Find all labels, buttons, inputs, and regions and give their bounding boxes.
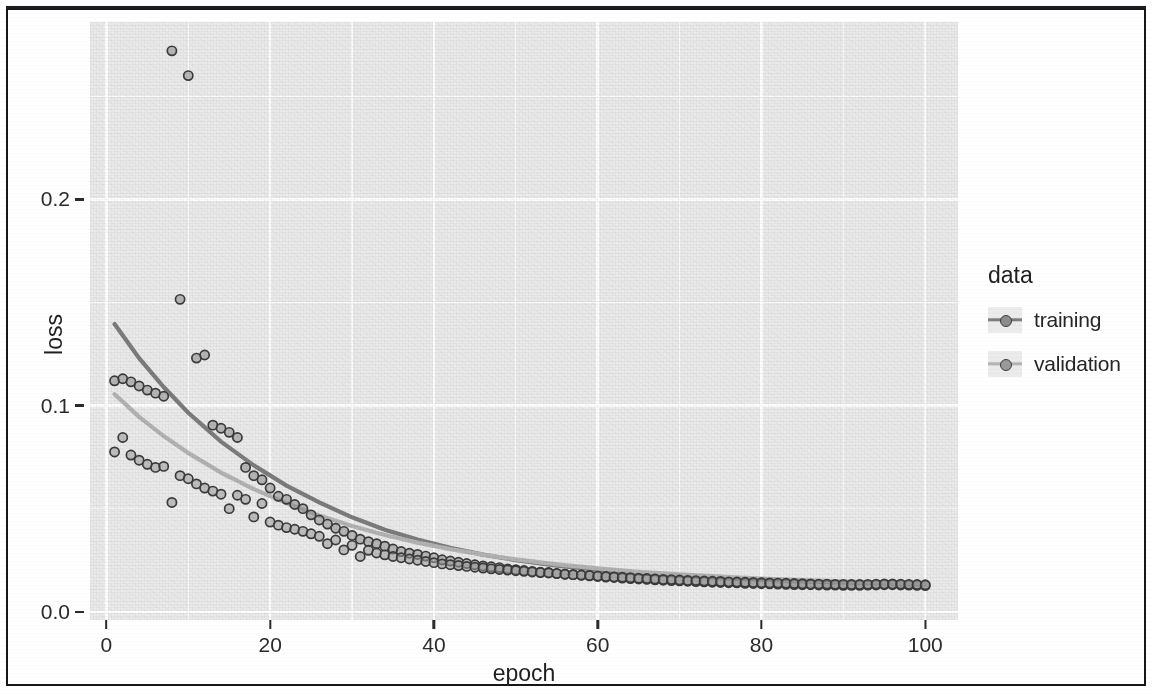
x-tick: 20 (258, 620, 281, 657)
series-validation (110, 433, 930, 589)
x-tick: 40 (422, 620, 445, 657)
x-tick-mark (596, 620, 599, 629)
legend-key-icon (988, 351, 1022, 377)
data-point (167, 46, 176, 55)
legend-items: trainingvalidation (988, 307, 1144, 377)
data-point (331, 535, 340, 544)
y-tick-mark (75, 198, 84, 201)
x-tick-mark (760, 620, 763, 629)
x-tick: 100 (908, 620, 943, 657)
data-point (118, 433, 127, 442)
data-point (257, 499, 266, 508)
data-point (315, 532, 324, 541)
data-point (921, 580, 930, 589)
data-point (298, 504, 307, 513)
x-tick: 80 (750, 620, 773, 657)
x-tick-label: 100 (908, 633, 943, 657)
x-tick-label: 80 (750, 633, 773, 657)
y-axis-title: loss (41, 275, 68, 395)
figure-container: 0.00.10.2 loss 020406080100 epoch data t… (0, 0, 1152, 694)
y-tick: 0.0 (41, 600, 84, 624)
y-tick-label: 0.1 (41, 394, 70, 418)
plot-panel (90, 22, 958, 620)
plot-area (90, 22, 958, 620)
data-point (200, 350, 209, 359)
legend: data trainingvalidation (988, 262, 1144, 395)
x-tick-mark (924, 620, 927, 629)
data-point (266, 483, 275, 492)
y-tick-label: 0.2 (41, 187, 70, 211)
data-point (175, 295, 184, 304)
x-tick-mark (269, 620, 272, 629)
y-tick: 0.1 (41, 394, 84, 418)
x-tick-label: 40 (422, 633, 445, 657)
x-tick-label: 0 (101, 633, 113, 657)
x-tick-label: 60 (586, 633, 609, 657)
data-point (241, 495, 250, 504)
data-point (159, 462, 168, 471)
y-tick-mark (75, 404, 84, 407)
legend-key-icon (988, 307, 1022, 333)
x-axis-title: epoch (90, 660, 958, 687)
data-point (167, 498, 176, 507)
x-tick: 60 (586, 620, 609, 657)
trend-line-training (115, 324, 926, 584)
data-point (241, 463, 250, 472)
y-tick-mark (75, 611, 84, 614)
legend-item-label: training (1034, 308, 1101, 332)
x-axis-ticks: 020406080100 (90, 620, 958, 660)
y-tick: 0.2 (41, 187, 84, 211)
legend-item-label: validation (1034, 352, 1121, 376)
data-point (249, 512, 258, 521)
legend-item-training[interactable]: training (988, 307, 1144, 333)
trend-line-validation (115, 394, 926, 583)
data-layer (90, 22, 958, 620)
data-point (184, 71, 193, 80)
legend-point (1000, 315, 1012, 327)
legend-point (1000, 359, 1012, 371)
data-point (257, 475, 266, 484)
x-tick: 0 (101, 620, 113, 657)
x-tick-label: 20 (258, 633, 281, 657)
data-point (347, 541, 356, 550)
legend-title: data (988, 262, 1144, 289)
y-tick-label: 0.0 (41, 600, 70, 624)
data-point (110, 447, 119, 456)
data-point (356, 552, 365, 561)
legend-item-validation[interactable]: validation (988, 351, 1144, 377)
x-tick-mark (105, 620, 108, 629)
data-point (233, 433, 242, 442)
data-point (159, 392, 168, 401)
data-point (216, 490, 225, 499)
x-tick-mark (433, 620, 436, 629)
data-point (225, 504, 234, 513)
